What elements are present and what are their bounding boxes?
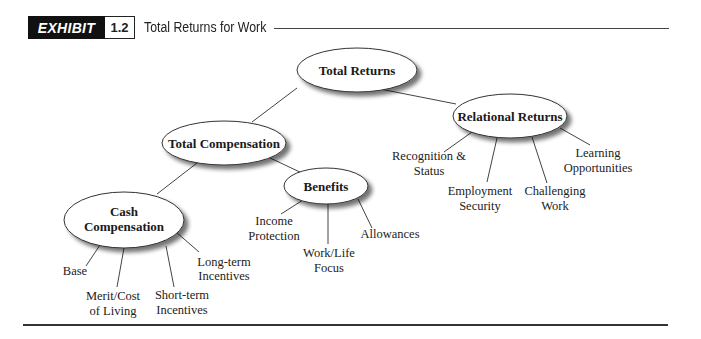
svg-text:Status: Status (414, 164, 445, 178)
node-total-returns: Total Returns (297, 48, 417, 92)
svg-text:Recognition &: Recognition & (392, 149, 466, 163)
total-returns-diagram: Total Returns Relational Returns Total C… (0, 0, 701, 339)
svg-text:of Living: of Living (90, 304, 138, 318)
leaf-merit-cost-of-living: Merit/Cost of Living (86, 289, 141, 318)
svg-text:Opportunities: Opportunities (564, 161, 633, 175)
node-total-compensation: Total Compensation (162, 121, 286, 165)
svg-text:Employment: Employment (448, 184, 513, 198)
svg-text:Short-term: Short-term (155, 288, 209, 302)
leaf-short-term-incentives: Short-term Incentives (155, 288, 209, 317)
leaf-long-term-incentives: Long-term Incentives (197, 255, 251, 283)
svg-text:Work: Work (541, 199, 569, 213)
svg-text:Protection: Protection (248, 229, 300, 243)
svg-text:Focus: Focus (314, 261, 344, 275)
svg-text:Challenging: Challenging (524, 184, 586, 198)
svg-text:Learning: Learning (575, 146, 621, 160)
node-label-line1: Cash (110, 204, 139, 219)
svg-text:Incentives: Incentives (198, 269, 250, 283)
leaf-income-protection: Income Protection (248, 214, 300, 243)
leaf-challenging-work: Challenging Work (524, 184, 586, 213)
node-benefits: Benefits (284, 168, 368, 204)
node-label: Benefits (304, 179, 349, 194)
node-label: Relational Returns (457, 109, 562, 124)
svg-text:Incentives: Incentives (156, 303, 208, 317)
leaf-employment-security: Employment Security (448, 184, 513, 213)
leaf-work-life-focus: Work/Life Focus (303, 246, 355, 275)
leaf-base: Base (63, 264, 88, 278)
leaf-recognition-status: Recognition & Status (392, 149, 466, 178)
svg-text:Income: Income (255, 214, 293, 228)
leaf-learning-opportunities: Learning Opportunities (564, 146, 633, 175)
node-label-line2: Compensation (84, 219, 165, 234)
node-cash-compensation: Cash Compensation (64, 192, 184, 248)
svg-text:Base: Base (63, 264, 88, 278)
svg-text:Merit/Cost: Merit/Cost (86, 289, 141, 303)
node-relational-returns: Relational Returns (453, 94, 567, 138)
node-label: Total Returns (319, 63, 395, 78)
svg-text:Allowances: Allowances (360, 227, 419, 241)
node-label: Total Compensation (168, 136, 281, 151)
leaf-allowances: Allowances (360, 227, 419, 241)
svg-text:Long-term: Long-term (197, 255, 251, 269)
svg-text:Work/Life: Work/Life (303, 246, 355, 260)
svg-text:Security: Security (459, 199, 501, 213)
